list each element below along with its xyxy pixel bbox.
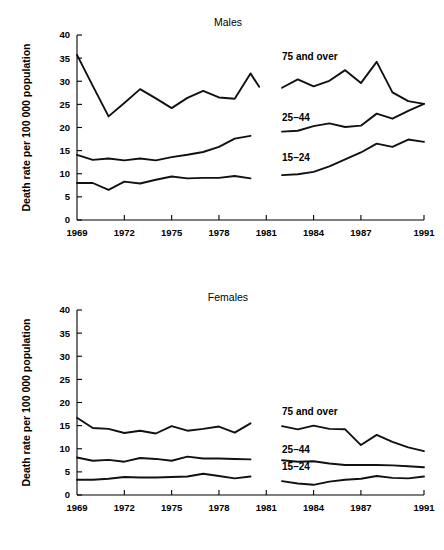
y-tick-label: 5 xyxy=(65,466,71,477)
x-tick-label: 1984 xyxy=(303,227,325,238)
y-axis-title: Death rate per 100 000 population xyxy=(20,43,32,211)
x-tick-label: 1987 xyxy=(350,502,371,513)
y-tick-label: 15 xyxy=(59,420,70,431)
x-tick-label: 1981 xyxy=(256,227,278,238)
y-tick-label: 20 xyxy=(59,122,70,133)
chart-panel-females: 0510152025303540196919721975197819811984… xyxy=(0,275,444,550)
series-line-25-44 xyxy=(77,136,251,161)
series-annotation-label: 15–24 xyxy=(282,461,310,472)
x-tick-label: 1978 xyxy=(208,502,229,513)
series-line-25-44 xyxy=(77,457,251,462)
y-tick-label: 20 xyxy=(59,397,70,408)
y-tick-label: 40 xyxy=(59,304,70,315)
y-tick-label: 35 xyxy=(59,328,70,339)
chart-panel-males: 0510152025303540196919721975197819811984… xyxy=(0,0,444,275)
x-tick-label: 1984 xyxy=(303,502,325,513)
y-tick-label: 0 xyxy=(65,214,70,225)
x-tick-label: 1972 xyxy=(114,227,135,238)
y-tick-label: 5 xyxy=(65,191,71,202)
panel-title: Males xyxy=(214,16,242,28)
x-tick-label: 1978 xyxy=(208,227,229,238)
series-line-15-24 xyxy=(77,176,251,190)
x-tick-label: 1987 xyxy=(350,227,371,238)
series-line-15-24 xyxy=(77,474,251,480)
y-tick-label: 35 xyxy=(59,53,70,64)
panel-title: Females xyxy=(208,291,248,303)
males-chart-svg: 0510152025303540196919721975197819811984… xyxy=(0,0,444,275)
x-tick-label: 1991 xyxy=(413,227,435,238)
series-annotation-label: 15–24 xyxy=(282,152,310,163)
x-tick-label: 1969 xyxy=(66,227,87,238)
y-tick-label: 10 xyxy=(59,168,70,179)
y-tick-label: 25 xyxy=(59,99,70,110)
x-tick-label: 1969 xyxy=(66,502,87,513)
x-tick-label: 1975 xyxy=(161,227,183,238)
y-tick-label: 10 xyxy=(59,443,70,454)
series-annotation-label: 25–44 xyxy=(282,444,310,455)
y-tick-label: 15 xyxy=(59,145,70,156)
y-tick-label: 40 xyxy=(59,29,70,40)
y-tick-label: 30 xyxy=(59,351,70,362)
x-tick-label: 1972 xyxy=(114,502,135,513)
x-tick-label: 1981 xyxy=(256,502,278,513)
x-tick-label: 1991 xyxy=(413,502,435,513)
series-annotation-label: 75 and over xyxy=(282,406,338,417)
series-annotation-label: 75 and over xyxy=(282,51,338,62)
females-chart-svg: 0510152025303540196919721975197819811984… xyxy=(0,275,444,550)
two-panel-line-chart-figure: 0510152025303540196919721975197819811984… xyxy=(0,0,444,550)
x-tick-label: 1975 xyxy=(161,502,183,513)
y-tick-label: 25 xyxy=(59,374,70,385)
series-line-75-and-over xyxy=(282,62,424,104)
y-tick-label: 0 xyxy=(65,489,70,500)
series-line-75-and-over xyxy=(77,55,259,117)
y-tick-label: 30 xyxy=(59,76,70,87)
y-axis-title: Death rate per 100 000 population xyxy=(20,318,32,486)
series-annotation-label: 25–44 xyxy=(282,112,310,123)
series-line-75-and-over xyxy=(77,418,251,434)
series-line-15-24 xyxy=(282,476,424,485)
